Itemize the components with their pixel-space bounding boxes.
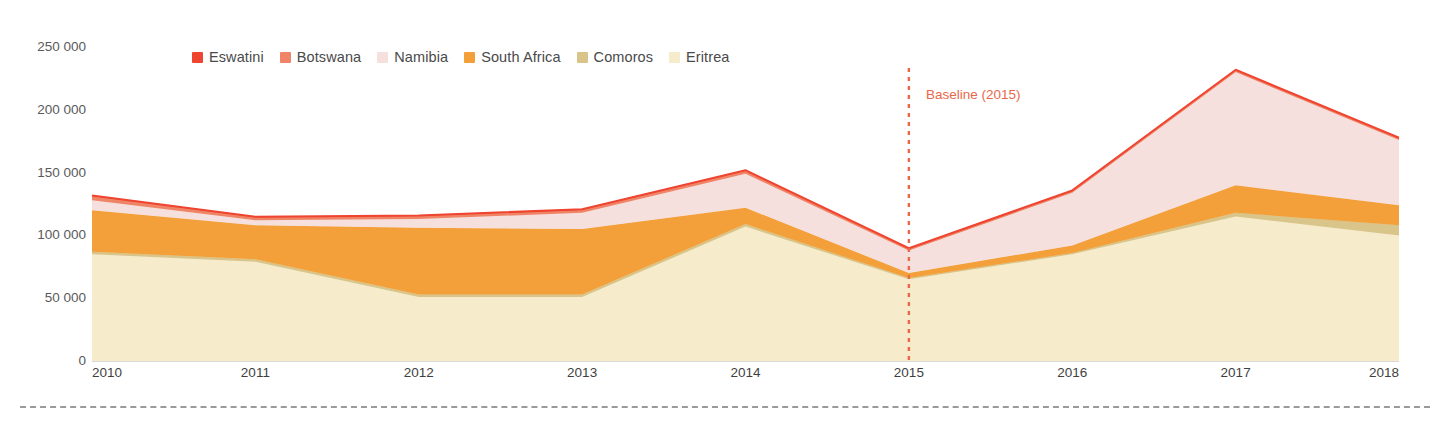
legend-item-eswatini[interactable]: Eswatini [192, 50, 264, 65]
x-axis-line [92, 361, 1399, 362]
legend-item-label: Comoros [594, 50, 654, 65]
x-axis-tick-label: 2016 [1057, 366, 1087, 380]
y-axis-tick-label: 100 000 [18, 229, 86, 243]
y-axis-tick-label: 250 000 [18, 40, 86, 54]
x-axis-tick-label: 2010 [92, 366, 122, 380]
bottom-dashed-divider [20, 406, 1430, 408]
y-axis-tick-label: 50 000 [18, 291, 86, 305]
legend-swatch-icon [192, 52, 203, 63]
x-axis-tick-label: 2011 [241, 366, 270, 380]
legend-item-label: Eritrea [686, 50, 729, 65]
area-series-group [92, 70, 1399, 361]
baseline-annotation-label: Baseline (2015) [926, 88, 1021, 102]
x-axis-tick-label: 2012 [404, 366, 434, 380]
legend-item-botswana[interactable]: Botswana [280, 50, 361, 65]
legend-item-label: Namibia [394, 50, 448, 65]
legend-item-label: Eswatini [209, 50, 264, 65]
x-axis: 201020112012201320142015201620172018 [0, 366, 1445, 388]
legend-item-eritrea[interactable]: Eritrea [669, 50, 729, 65]
chart-page: Baseline (2015) EswatiniBotswanaNamibiaS… [0, 0, 1445, 421]
legend-item-comoros[interactable]: Comoros [577, 50, 654, 65]
legend-item-label: South Africa [481, 50, 560, 65]
legend-swatch-icon [280, 52, 291, 63]
legend-item-south-africa[interactable]: South Africa [464, 50, 560, 65]
legend-swatch-icon [464, 52, 475, 63]
x-axis-tick-label: 2014 [730, 366, 760, 380]
y-axis-tick-label: 150 000 [18, 166, 86, 180]
y-axis: 250 000200 000150 000100 00050 0000 [18, 0, 86, 421]
y-axis-tick-label: 200 000 [18, 103, 86, 117]
x-axis-tick-label: 2018 [1369, 366, 1399, 380]
legend-item-namibia[interactable]: Namibia [377, 50, 448, 65]
x-axis-tick-label: 2015 [894, 366, 924, 380]
chart-legend: EswatiniBotswanaNamibiaSouth AfricaComor… [192, 46, 730, 68]
legend-item-label: Botswana [297, 50, 361, 65]
x-axis-tick-label: 2013 [567, 366, 597, 380]
legend-swatch-icon [577, 52, 588, 63]
x-axis-tick-label: 2017 [1221, 366, 1251, 380]
legend-swatch-icon [669, 52, 680, 63]
legend-swatch-icon [377, 52, 388, 63]
